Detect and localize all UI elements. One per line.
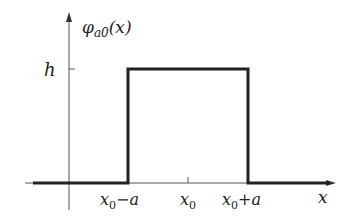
tick-label-x0-plus-a: x0+a — [222, 190, 261, 212]
y-axis-label: φa0(x) — [82, 17, 132, 40]
y-axis-arrow-icon — [66, 12, 72, 22]
pulse-curve — [33, 69, 330, 183]
x-axis-label: x — [318, 187, 328, 207]
tick-label-x0-minus-a: x0−a — [100, 190, 139, 212]
height-label: h — [44, 59, 56, 80]
tick-label-x0: x0 — [180, 190, 196, 212]
pulse-diagram: φa0(x) h x x0−a x0 x0+a — [0, 0, 353, 221]
